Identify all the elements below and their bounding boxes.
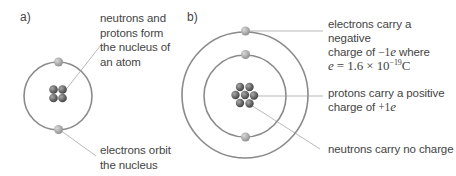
- exponent: −19: [390, 58, 402, 67]
- annotation-line: the nucleus: [100, 158, 171, 173]
- annotation-line: neutrons and: [100, 11, 170, 26]
- annotation-line: charge of +1e: [328, 100, 445, 114]
- orbit-a: [24, 62, 92, 130]
- leader-nucleus-a: [64, 45, 101, 92]
- electron-a-bottom: [54, 125, 63, 134]
- leader-electron-a: [60, 130, 96, 156]
- annotation-line: an atom: [100, 55, 170, 70]
- annotation-electrons-a: electrons orbit the nucleus: [100, 143, 171, 173]
- math: = 1.6 × 10: [334, 58, 390, 73]
- annotation-nucleus-a: neutrons and protons form the nucleus of…: [100, 11, 170, 69]
- annotation-protons-b: protons carry a positive charge of +1e: [328, 86, 445, 114]
- atom-b: [182, 27, 323, 159]
- math-e: e: [390, 99, 396, 114]
- text: where: [396, 46, 430, 58]
- electron-b-inner-top: [241, 50, 250, 59]
- math: −1: [378, 46, 390, 58]
- nucleus-a: [49, 85, 67, 102]
- math: +1: [378, 101, 390, 113]
- atom-a: [24, 45, 101, 156]
- annotation-line: the nucleus of: [100, 40, 170, 55]
- nucleus-b: [231, 83, 258, 108]
- annotation-line: protons carry a positive: [328, 86, 445, 100]
- annotation-line: electrons orbit: [100, 143, 171, 158]
- electron-b-outer-top: [241, 27, 250, 36]
- annotation-line: protons form: [100, 26, 170, 41]
- panel-label-b: b): [187, 10, 198, 24]
- text: charge of: [328, 46, 378, 58]
- panel-label-a: a): [20, 10, 31, 24]
- annotation-line: electrons carry a negative: [328, 17, 456, 45]
- electron-a-top: [54, 58, 63, 67]
- text: charge of: [328, 101, 378, 113]
- unit: C: [402, 58, 411, 73]
- annotation-electrons-b: electrons carry a negative charge of −1e…: [328, 17, 456, 73]
- annotation-line: e = 1.6 × 10−19C: [328, 59, 456, 73]
- annotation-neutrons-b: neutrons carry no charge: [328, 143, 453, 156]
- electron-b-inner-bottom: [241, 133, 250, 142]
